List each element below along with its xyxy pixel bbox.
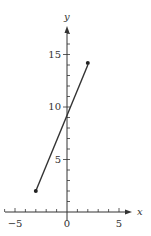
- y-tick-label-10: 10: [48, 101, 61, 112]
- x-axis-arrow-icon: [125, 210, 132, 215]
- y-tick-label-5: 5: [55, 154, 61, 165]
- y-axis-arrow-icon: [65, 26, 70, 33]
- x-tick-label-neg5: −5: [8, 218, 23, 229]
- endpoint-end-dot: [86, 61, 90, 65]
- x-axis-label: x: [137, 206, 143, 217]
- line-segment: [36, 65, 88, 191]
- chart: x −5 0 5 y 5 10 15: [0, 0, 151, 236]
- x-tick-label-5: 5: [116, 218, 122, 229]
- y-tick-label-15: 15: [48, 49, 61, 60]
- y-axis-label: y: [63, 11, 70, 22]
- endpoint-start-dot: [34, 189, 38, 193]
- x-axis-ticks: [5, 208, 119, 212]
